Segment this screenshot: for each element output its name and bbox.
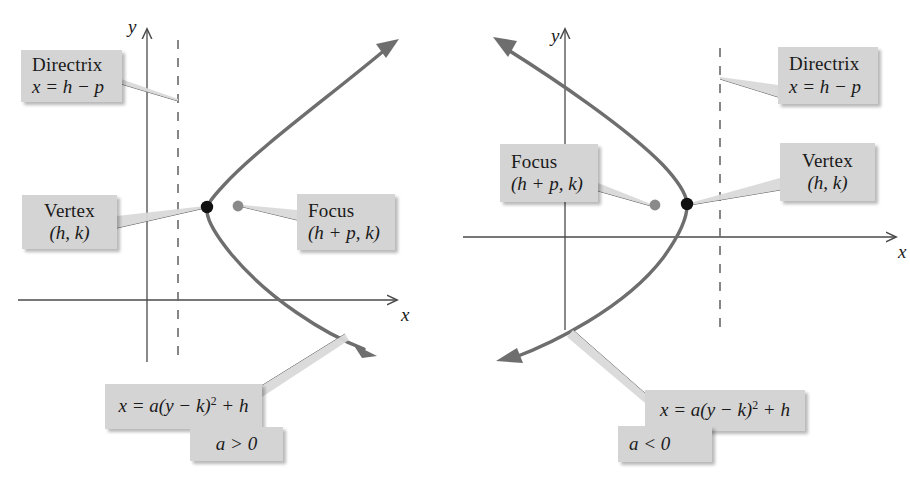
callout-vertex-title: Vertex xyxy=(44,200,95,222)
callout-focus-coords: (h + p, k) xyxy=(511,173,583,195)
callout-directrix-equation: x = h − p xyxy=(32,76,104,98)
callout-vertex-coords: (h, k) xyxy=(49,222,89,244)
equation-leader-shadow xyxy=(258,334,349,397)
y-axis-label: y xyxy=(551,25,559,47)
callout-focus-coords: (h + p, k) xyxy=(308,222,380,244)
equation-leader-shadow xyxy=(567,330,647,403)
vertex-point xyxy=(201,201,213,213)
vertex-leader-shadow xyxy=(117,206,205,228)
parabola-figure: y x Directrix x = h − p Vertex (h, k) Fo… xyxy=(0,0,910,484)
equation-rhs: + h xyxy=(217,395,249,416)
x-axis-label: x xyxy=(898,241,906,263)
callout-equation[interactable]: x = a(y − k)2 + h xyxy=(645,390,805,431)
callout-directrix-title: Directrix xyxy=(32,54,102,76)
panel-parabola-a-positive: y x Directrix x = h − p Vertex (h, k) Fo… xyxy=(0,0,455,484)
callout-equation-text: x = a(y − k)2 + h xyxy=(119,395,249,418)
callout-focus[interactable]: Focus (h + p, k) xyxy=(297,194,395,250)
callout-vertex[interactable]: Vertex (h, k) xyxy=(22,195,117,249)
focus-leader-shadow xyxy=(243,205,297,220)
callout-condition-text: a < 0 xyxy=(629,433,670,455)
focus-leader-shadow xyxy=(598,183,651,206)
callout-focus[interactable]: Focus (h + p, k) xyxy=(500,144,598,202)
directrix-leader-shadow xyxy=(121,79,178,101)
callout-condition-text: a > 0 xyxy=(216,433,257,455)
focus-point xyxy=(650,200,661,211)
callout-vertex[interactable]: Vertex (h, k) xyxy=(780,143,875,201)
panel-parabola-a-negative: y x Directrix x = h − p Focus (h + p, k)… xyxy=(455,0,910,484)
callout-vertex-coords: (h, k) xyxy=(807,172,847,194)
callout-vertex-title: Vertex xyxy=(802,150,853,172)
equation-lhs: x = a(y − k) xyxy=(119,395,211,416)
y-axis-label: y xyxy=(128,16,136,38)
callout-focus-title: Focus xyxy=(308,200,354,222)
vertex-leader-shadow xyxy=(690,178,780,205)
callout-directrix-equation: x = h − p xyxy=(789,76,861,98)
x-axis-label: x xyxy=(401,304,409,326)
vertex-point xyxy=(681,198,693,210)
focus-point xyxy=(233,201,244,212)
curve-arrowhead-lower xyxy=(353,344,377,358)
curve-arrowhead-lower xyxy=(496,348,523,363)
callout-equation[interactable]: x = a(y − k)2 + h xyxy=(105,384,262,429)
equation-rhs: + h xyxy=(758,399,790,420)
callout-equation-text: x = a(y − k)2 + h xyxy=(660,399,790,422)
callout-focus-title: Focus xyxy=(511,151,557,173)
directrix-leader-shadow xyxy=(720,77,778,97)
callout-directrix[interactable]: Directrix x = h − p xyxy=(21,50,122,102)
callout-directrix[interactable]: Directrix x = h − p xyxy=(778,47,878,104)
equation-lhs: x = a(y − k) xyxy=(660,399,752,420)
callout-condition[interactable]: a > 0 xyxy=(190,427,283,461)
callout-condition[interactable]: a < 0 xyxy=(618,426,712,462)
callout-directrix-title: Directrix xyxy=(789,53,859,75)
